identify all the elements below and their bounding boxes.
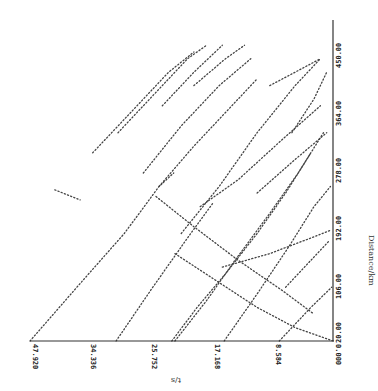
series-line-21 — [270, 59, 321, 86]
series-line-4 — [175, 133, 324, 341]
time-tick-label: 0.000 — [334, 344, 342, 365]
distance-tick-label: 364.00 — [335, 101, 343, 126]
series-line-5 — [224, 186, 330, 341]
series-line-1 — [30, 173, 174, 341]
time-axis-ticks: 47.920 34.336 25.752 17.168 8.584 0.000 — [31, 344, 342, 369]
time-tick-label: 34.336 — [89, 344, 97, 369]
series-line-8 — [159, 79, 257, 186]
time-tick-label: 47.920 — [31, 344, 39, 369]
series-line-19 — [55, 190, 80, 200]
series-line-14 — [194, 45, 245, 85]
series-line-11 — [93, 52, 194, 153]
distance-axis-title: Distance/km — [367, 235, 376, 286]
distance-tick-label: 106.00 — [335, 274, 343, 299]
distance-tick-label: 450.00 — [335, 43, 343, 68]
time-tick-label: 25.752 — [150, 344, 158, 369]
time-axis-title: t/s — [171, 376, 181, 385]
distance-tick-label: 192.00 — [335, 216, 343, 241]
series-line-16 — [292, 72, 327, 133]
series-line-18 — [222, 230, 331, 267]
series-line-9 — [143, 59, 251, 173]
series-line-20 — [156, 197, 314, 315]
distance-axis-ticks: 20.00 106.00 192.00 278.00 364.00 450.00 — [335, 43, 343, 343]
series-line-22 — [286, 240, 330, 287]
data-series-layer — [30, 45, 333, 341]
series-line-6 — [175, 254, 333, 341]
distance-tick-label: 278.00 — [335, 158, 343, 183]
series-line-7 — [279, 287, 331, 341]
time-tick-label: 17.168 — [213, 344, 221, 369]
series-line-3 — [172, 153, 311, 341]
distance-tick-label: 20.00 — [335, 322, 343, 343]
time-tick-label: 8.584 — [274, 344, 282, 365]
series-line-2 — [116, 203, 213, 341]
series-line-12 — [118, 45, 207, 132]
travel-time-chart: 47.920 34.336 25.752 17.168 8.584 0.000 … — [0, 0, 378, 391]
